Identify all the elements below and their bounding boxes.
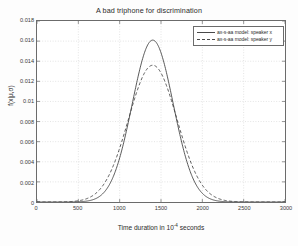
x-axis-tick-label: 0: [34, 205, 37, 211]
plot-area: [36, 20, 286, 203]
y-axis-tick-label: 0.008: [0, 119, 34, 125]
y-axis-tick-label: 0.006: [0, 139, 34, 145]
x-axis-tick-label: 2500: [238, 205, 250, 211]
curve-layer: [37, 21, 285, 202]
y-axis-tick-label: 0.01: [0, 98, 34, 104]
legend-line-sample-solid: [196, 29, 216, 36]
y-axis-tick-label: 0.002: [0, 180, 34, 186]
y-axis-tick-label: 0.014: [0, 58, 34, 64]
y-axis-tick-label: 0.016: [0, 37, 34, 43]
figure-canvas: A bad triphone for discrimination 00.002…: [0, 0, 298, 246]
x-axis-label-suffix: seconds: [178, 224, 204, 231]
y-axis-tick-label: 0.012: [0, 78, 34, 84]
y-axis-label: f(x|μ,σ): [7, 68, 14, 124]
x-axis-tick-label: 1500: [155, 205, 167, 211]
x-axis-label: Time duration in 10-4 seconds: [36, 224, 286, 231]
x-axis-label-prefix: Time duration in 10: [118, 224, 174, 231]
legend-item: ax-s-aa model: speaker y: [196, 36, 281, 43]
x-axis-tick-label: 1000: [113, 205, 125, 211]
legend-item-label: ax-s-aa model: speaker x: [216, 29, 272, 35]
y-axis-tick-label: 0: [0, 200, 34, 206]
legend-item: ax-s-aa model: speaker x: [196, 29, 281, 36]
x-axis-tick-label: 2000: [196, 205, 208, 211]
legend-line-sample-dashed: [196, 36, 216, 43]
legend-item-label: ax-s-aa model: speaker y: [216, 36, 272, 42]
y-axis-tick-label: 0.018: [0, 17, 34, 23]
x-axis-tick-label: 3000: [280, 205, 292, 211]
chart-series-line: [37, 65, 285, 202]
y-axis-tick-label: 0.004: [0, 159, 34, 165]
chart-legend: ax-s-aa model: speaker x ax-s-aa model: …: [193, 26, 284, 46]
chart-series-line: [37, 40, 285, 202]
x-axis-tick-label: 500: [73, 205, 82, 211]
chart-title: A bad triphone for discrimination: [0, 6, 298, 15]
